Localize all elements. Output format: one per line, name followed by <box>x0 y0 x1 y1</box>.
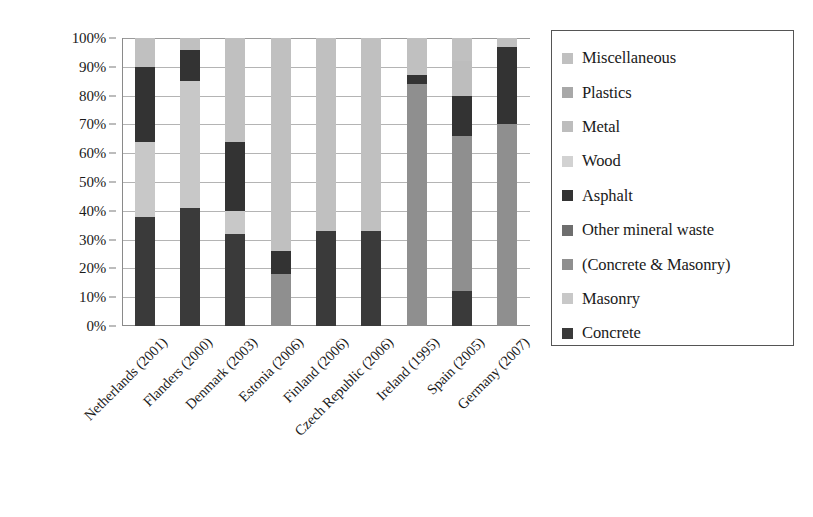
bar-group[interactable] <box>135 38 155 326</box>
legend-label: Wood <box>582 152 621 170</box>
legend-swatch-icon <box>562 259 573 270</box>
legend-label: Plastics <box>582 84 632 102</box>
bar-segment[interactable] <box>271 38 291 251</box>
bar-group[interactable] <box>225 38 245 326</box>
chart-legend: MiscellaneousPlasticsMetalWoodAsphaltOth… <box>551 30 794 346</box>
bar-segment[interactable] <box>497 47 517 125</box>
bar-group[interactable] <box>497 38 517 326</box>
bar-segment[interactable] <box>316 38 336 231</box>
y-tick-label: 30% <box>79 232 106 247</box>
y-tick-mark <box>109 210 116 211</box>
y-tick-label: 90% <box>79 59 106 74</box>
legend-swatch-icon <box>562 190 573 201</box>
legend-item[interactable]: Concrete <box>560 316 793 350</box>
legend-label: (Concrete & Masonry) <box>582 256 730 274</box>
legend-swatch-icon <box>562 87 573 98</box>
legend-item[interactable]: Plastics <box>560 75 793 109</box>
y-tick-mark <box>109 66 116 67</box>
bar-segment[interactable] <box>452 291 472 326</box>
legend-label: Miscellaneous <box>582 49 676 67</box>
bar-segment[interactable] <box>452 38 472 61</box>
bar-segment[interactable] <box>407 75 427 84</box>
plot-area <box>122 38 530 326</box>
legend-item[interactable]: (Concrete & Masonry) <box>560 247 793 281</box>
bar-segment[interactable] <box>225 38 245 142</box>
bar-segment[interactable] <box>180 81 200 208</box>
legend-item[interactable]: Asphalt <box>560 179 793 213</box>
bar-group[interactable] <box>407 38 427 326</box>
bar-segment[interactable] <box>135 38 155 67</box>
x-axis-labels: Netherlands (2001)Flanders (2000)Denmark… <box>122 326 530 496</box>
bar-segment[interactable] <box>225 211 245 234</box>
bar-segment[interactable] <box>225 234 245 326</box>
bar-segment[interactable] <box>225 142 245 211</box>
legend-swatch-icon <box>562 328 573 339</box>
bar-segment[interactable] <box>135 217 155 326</box>
legend-item[interactable]: Metal <box>560 110 793 144</box>
bar-segment[interactable] <box>271 274 291 326</box>
bar-group[interactable] <box>452 38 472 326</box>
y-axis: 0%10%20%30%40%50%60%70%80%90%100% <box>44 38 116 326</box>
bar-segment[interactable] <box>135 142 155 217</box>
y-tick-mark <box>109 182 116 183</box>
stacked-bar-chart: 0%10%20%30%40%50%60%70%80%90%100% Nether… <box>0 0 813 517</box>
legend-item[interactable]: Masonry <box>560 282 793 316</box>
legend-swatch-icon <box>562 293 573 304</box>
y-tick-label: 10% <box>79 290 106 305</box>
y-tick-label: 60% <box>79 146 106 161</box>
y-tick-mark <box>109 297 116 298</box>
bar-segment[interactable] <box>316 231 336 326</box>
legend-label: Metal <box>582 118 620 136</box>
legend-item[interactable]: Wood <box>560 144 793 178</box>
legend-label: Asphalt <box>582 187 633 205</box>
y-tick-mark <box>109 124 116 125</box>
bar-segment[interactable] <box>361 231 381 326</box>
legend-label: Concrete <box>582 324 641 342</box>
legend-swatch-icon <box>562 156 573 167</box>
bar-segment[interactable] <box>497 124 517 326</box>
y-tick-label: 20% <box>79 261 106 276</box>
y-tick-label: 70% <box>79 117 106 132</box>
bar-segment[interactable] <box>361 38 381 231</box>
bar-group[interactable] <box>180 38 200 326</box>
y-tick-label: 100% <box>72 31 106 46</box>
bar-segment[interactable] <box>452 61 472 96</box>
legend-item[interactable]: Other mineral waste <box>560 213 793 247</box>
y-tick-mark <box>109 95 116 96</box>
bar-group[interactable] <box>316 38 336 326</box>
y-tick-label: 80% <box>79 88 106 103</box>
bar-segment[interactable] <box>407 84 427 326</box>
bar-segment[interactable] <box>180 208 200 326</box>
legend-swatch-icon <box>562 53 573 64</box>
bar-segment[interactable] <box>271 251 291 274</box>
y-tick-label: 40% <box>79 203 106 218</box>
bar-segment[interactable] <box>407 38 427 75</box>
y-tick-mark <box>109 268 116 269</box>
y-tick-mark <box>109 239 116 240</box>
bar-segment[interactable] <box>135 67 155 142</box>
bar-segment[interactable] <box>180 50 200 82</box>
y-tick-mark <box>109 326 116 327</box>
bar-segment[interactable] <box>452 96 472 136</box>
legend-label: Masonry <box>582 290 640 308</box>
bar-group[interactable] <box>361 38 381 326</box>
bar-segment[interactable] <box>452 136 472 292</box>
bars-layer <box>122 38 530 326</box>
legend-swatch-icon <box>562 225 573 236</box>
legend-item[interactable]: Miscellaneous <box>560 41 793 75</box>
bar-group[interactable] <box>271 38 291 326</box>
bar-segment[interactable] <box>497 38 517 47</box>
y-tick-mark <box>109 153 116 154</box>
y-tick-label: 50% <box>79 175 106 190</box>
y-tick-mark <box>109 38 116 39</box>
bar-segment[interactable] <box>180 38 200 50</box>
legend-label: Other mineral waste <box>582 221 714 239</box>
legend-swatch-icon <box>562 121 573 132</box>
y-tick-label: 0% <box>86 319 106 334</box>
